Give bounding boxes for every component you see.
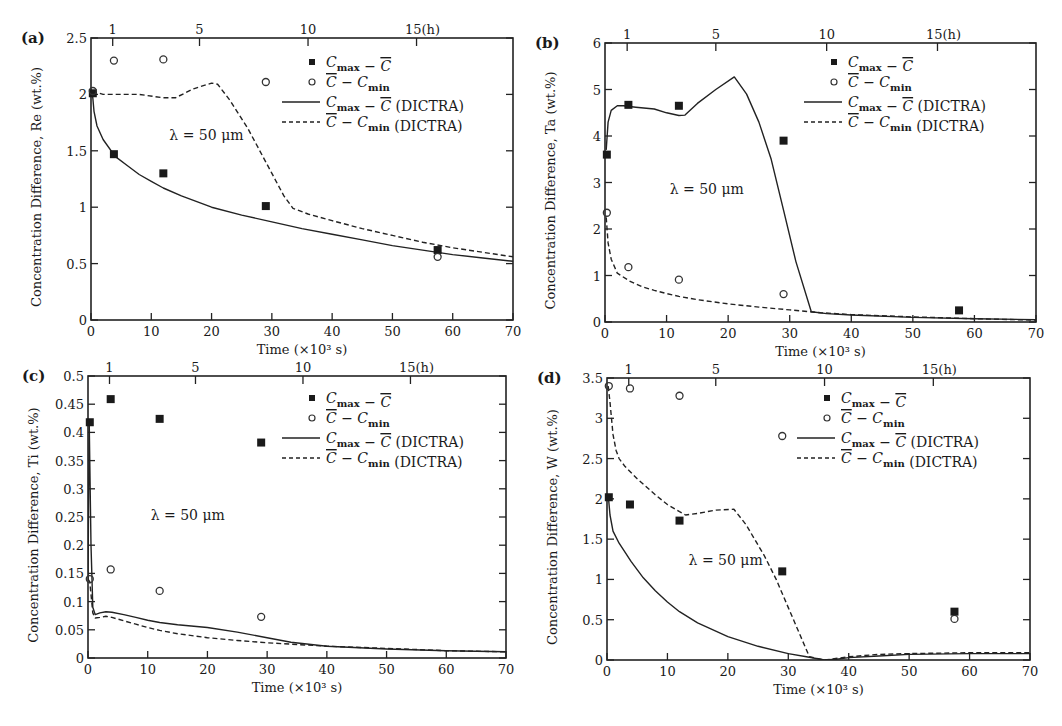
x-tick-label: 70 (498, 662, 515, 677)
cmin-data-point (262, 78, 269, 85)
legend-entry-label: C − Cmin (DICTRA) (848, 114, 985, 134)
top-axis-hour-label: 15(h) (922, 362, 957, 377)
cmax-data-point (110, 150, 118, 158)
y-tick-label: 3 (593, 176, 601, 191)
x-axis-title: Time (×10³ s) (773, 682, 864, 697)
cmax-data-point (262, 202, 270, 210)
y-tick-label: 0.3 (63, 482, 84, 497)
y-axis-title: Concentration Difference, Ta (wt.%) (543, 72, 558, 310)
legend-entry-label: C − Cmin (326, 410, 390, 429)
legend-square-marker (309, 59, 315, 65)
y-tick-label: 0.25 (55, 510, 84, 525)
legend-entry-label: Cmax − C (326, 54, 391, 74)
dictra-cmax-curve (608, 495, 1030, 660)
x-tick-label: 70 (1022, 664, 1039, 679)
legend-circle-marker (824, 415, 830, 421)
x-axis-title: Time (×10³ s) (252, 680, 343, 695)
cmin-data-point (625, 264, 632, 271)
x-tick-label: 0 (87, 324, 95, 339)
top-axis-hour-label: 5 (712, 362, 720, 377)
x-tick-label: 40 (840, 664, 857, 679)
cmax-data-point (780, 137, 788, 145)
cmax-data-point (156, 415, 164, 423)
cmin-data-point (110, 57, 117, 64)
top-axis-hour-label: 15(h) (926, 27, 961, 42)
cmin-data-point (434, 253, 441, 260)
y-tick-label: 6 (593, 36, 601, 51)
y-axis-title: Concentration Difference, Re (wt.%) (29, 67, 44, 307)
cmin-data-point (951, 615, 958, 622)
x-tick-label: 0 (603, 664, 611, 679)
legend-square-marker (309, 395, 315, 401)
y-axis-title: Concentration Difference, W (wt.%) (545, 409, 560, 645)
y-tick-label: 1 (593, 269, 601, 284)
legend-circle-marker (309, 415, 315, 421)
legend-entry-label: Cmax − C (DICTRA) (326, 94, 464, 114)
x-tick-label: 50 (901, 664, 918, 679)
x-tick-label: 50 (378, 662, 395, 677)
cmin-data-point (780, 291, 787, 298)
cmax-data-point (676, 517, 684, 525)
legend: Cmax − CC − CminCmax − C (DICTRA)C − Cmi… (804, 54, 986, 134)
legend: Cmax − CC − CminCmax − C (DICTRA)C − Cmi… (282, 390, 464, 470)
y-tick-label: 0.5 (582, 613, 603, 628)
legend-circle-marker (309, 79, 315, 85)
x-tick-label: 30 (781, 326, 798, 341)
y-tick-label: 5 (593, 83, 601, 98)
cmin-data-point (779, 433, 786, 440)
x-tick-label: 40 (324, 324, 341, 339)
y-tick-label: 0.35 (55, 454, 84, 469)
y-tick-label: 3.5 (582, 371, 603, 386)
top-axis-hour-label: 5 (712, 27, 720, 42)
top-axis-hour-label: 10 (816, 362, 833, 377)
top-axis-hour-label: 15(h) (399, 360, 434, 375)
y-axis-title: Concentration Difference, Ti (wt.%) (26, 407, 41, 642)
y-tick-label: 0.1 (63, 595, 84, 610)
cmin-data-point (107, 566, 114, 573)
x-tick-label: 20 (203, 324, 220, 339)
x-tick-label: 30 (780, 664, 797, 679)
top-axis-hour-label: 5 (191, 360, 199, 375)
top-axis-hour-label: 1 (109, 22, 117, 37)
cmin-data-point (675, 276, 682, 283)
x-tick-label: 40 (319, 662, 336, 677)
x-axis-title: Time (×10³ s) (257, 342, 348, 357)
legend-entry-label: Cmax − C (841, 390, 906, 410)
x-tick-label: 70 (505, 324, 522, 339)
y-tick-label: 3 (595, 411, 603, 426)
x-tick-label: 20 (720, 326, 737, 341)
panel-label: (a) (21, 29, 45, 47)
cmax-data-point (626, 500, 634, 508)
x-tick-label: 40 (843, 326, 860, 341)
cmax-data-point (86, 418, 94, 426)
x-axis-title: Time (×10³ s) (775, 344, 866, 359)
x-tick-label: 30 (259, 662, 276, 677)
y-tick-label: 0.15 (55, 566, 84, 581)
y-tick-label: 0.5 (66, 257, 87, 272)
cmax-data-point (603, 151, 611, 159)
panel-label: (c) (22, 367, 45, 385)
cmax-data-point (955, 306, 963, 314)
y-tick-label: 0.4 (63, 425, 84, 440)
cmin-data-point (626, 385, 633, 392)
top-axis-hour-label: 10 (300, 22, 317, 37)
x-tick-label: 70 (1028, 326, 1045, 341)
dictra-cmin-curve (606, 217, 1036, 320)
top-axis-hour-label: 1 (625, 362, 633, 377)
x-tick-label: 10 (659, 664, 676, 679)
top-axis-hour-label: 5 (195, 22, 203, 37)
y-tick-label: 1 (595, 572, 603, 587)
y-tick-label: 2.5 (66, 31, 87, 46)
y-tick-label: 2.5 (582, 452, 603, 467)
y-tick-label: 2 (593, 222, 601, 237)
dictra-cmin-curve (608, 386, 1030, 660)
top-axis-hour-label: 1 (105, 360, 113, 375)
legend-entry-label: C − Cmin (326, 74, 390, 93)
x-tick-label: 10 (658, 326, 675, 341)
legend-entry-label: Cmax − C (DICTRA) (841, 430, 979, 450)
cmin-data-point (160, 56, 167, 63)
cmin-data-point (156, 587, 163, 594)
y-tick-label: 0 (76, 651, 84, 666)
x-tick-label: 20 (199, 662, 216, 677)
y-tick-label: 1.5 (582, 532, 603, 547)
